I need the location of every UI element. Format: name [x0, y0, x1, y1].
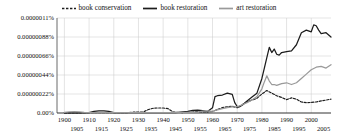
- x-tick-label: 1915: [95, 125, 109, 132]
- x-tick-label: 1995: [292, 125, 306, 132]
- x-tick-label: 1935: [144, 125, 158, 132]
- x-tick-label: 1985: [268, 125, 282, 132]
- x-axis-tick-labels: 1900190519101915192019251930193519401945…: [58, 116, 331, 132]
- x-tick-label: 1955: [194, 125, 208, 132]
- y-axis-tick-labels: 0.00%0.00000022%0.00000044%0.00000066%0.…: [17, 14, 54, 116]
- x-tick-label: 1980: [255, 116, 269, 123]
- x-tick-label: 2005: [317, 125, 331, 132]
- x-tick-label: 1960: [206, 116, 220, 123]
- x-tick-label: 1940: [157, 116, 171, 123]
- x-tick-label: 1990: [280, 116, 294, 123]
- x-tick-label: 1950: [181, 116, 195, 123]
- x-tick-label: 1945: [169, 125, 183, 132]
- x-tick-label: 1910: [82, 116, 96, 123]
- data-series: [64, 25, 331, 113]
- series-line-book-restoration: [64, 25, 331, 113]
- x-tick-label: 1930: [132, 116, 146, 123]
- x-tick-label: 1920: [107, 116, 121, 123]
- x-tick-label: 1900: [58, 116, 72, 123]
- x-tick-label: 1970: [231, 116, 245, 123]
- x-tick-label: 1965: [218, 125, 232, 132]
- y-tick-label: 0.00000044%: [17, 71, 54, 78]
- y-tick-label: 0.00%: [37, 109, 55, 116]
- y-tick-label: 0.00000088%: [17, 33, 54, 40]
- x-tick-label: 1905: [70, 125, 84, 132]
- y-tick-label: 0.00000066%: [17, 52, 54, 59]
- x-tick-label: 2000: [305, 116, 319, 123]
- x-tick-label: 1975: [243, 125, 257, 132]
- series-line-art-restoration: [64, 65, 331, 113]
- x-tick-label: 1925: [120, 125, 134, 132]
- chart-plot-area: 0.00%0.00000022%0.00000044%0.00000066%0.…: [0, 0, 338, 136]
- y-tick-label: 0.0000011%: [21, 14, 55, 21]
- ngram-chart: book conservationbook restorationart res…: [0, 0, 338, 136]
- y-tick-label: 0.00000022%: [17, 90, 54, 97]
